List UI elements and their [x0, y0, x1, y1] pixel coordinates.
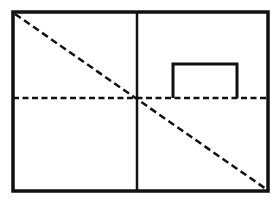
diagram-canvas	[0, 0, 276, 204]
diagonal-dashed-line	[15, 14, 266, 189]
outer-frame	[13, 12, 268, 191]
inner-rectangle-shape	[173, 64, 237, 98]
